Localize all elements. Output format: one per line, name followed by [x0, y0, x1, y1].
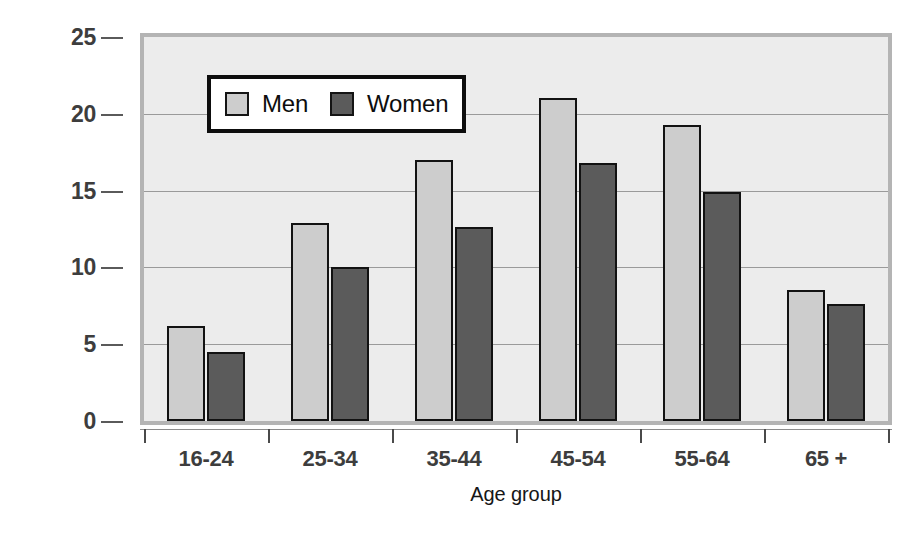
bar-women-65plus	[827, 304, 865, 421]
men-swatch-icon	[225, 92, 249, 116]
x-axis-tick-label: 25-34	[260, 446, 400, 472]
bar-men-45-54	[539, 98, 577, 421]
y-axis-tick-mark	[101, 37, 123, 39]
y-axis-tick-label: 20	[44, 100, 96, 127]
bar-men-16-24	[167, 326, 205, 421]
legend-label: Men	[262, 90, 308, 118]
y-axis-tick-label: 10	[44, 254, 96, 281]
y-axis-tick-mark	[101, 114, 123, 116]
x-axis-tick-label: 65 +	[756, 446, 896, 472]
x-axis-tick-mark	[764, 429, 766, 443]
bar-chart: Percentage of workers unionized 05101520…	[0, 0, 914, 533]
x-axis-tick-mark	[516, 429, 518, 443]
y-axis-tick-label: 25	[44, 24, 96, 51]
y-axis-tick-labels: 0510152025	[40, 0, 96, 533]
y-axis-tick-label: 5	[44, 331, 96, 358]
women-swatch-icon	[330, 92, 354, 116]
x-axis-tick-label: 16-24	[136, 446, 276, 472]
y-axis-tick-mark	[101, 344, 123, 346]
bar-women-25-34	[331, 267, 369, 421]
legend-entry-men: Men	[225, 90, 308, 118]
x-axis-title: Age group	[140, 483, 892, 506]
bar-women-45-54	[579, 163, 617, 421]
x-axis-tick-mark	[640, 429, 642, 443]
y-axis-tick-label: 0	[44, 408, 96, 435]
legend-entry-women: Women	[330, 90, 448, 118]
bar-women-35-44	[455, 227, 493, 421]
y-axis-tick-label: 15	[44, 177, 96, 204]
y-axis-tick-mark	[101, 421, 123, 423]
x-axis-tick-label: 35-44	[384, 446, 524, 472]
chart-legend: MenWomen	[207, 75, 466, 133]
y-axis-tick-mark	[101, 267, 123, 269]
x-axis-tick-mark	[144, 429, 146, 443]
x-axis-tick-label: 55-64	[632, 446, 772, 472]
y-axis-tick-mark	[101, 191, 123, 193]
x-axis-tick-mark	[392, 429, 394, 443]
x-axis-tick-mark	[888, 429, 890, 443]
bar-men-55-64	[663, 125, 701, 421]
bar-women-55-64	[703, 192, 741, 421]
legend-label: Women	[367, 90, 448, 118]
bar-men-35-44	[415, 160, 453, 421]
bar-women-16-24	[207, 352, 245, 421]
x-axis-tick-mark	[268, 429, 270, 443]
x-axis-tick-label: 45-54	[508, 446, 648, 472]
bar-men-25-34	[291, 223, 329, 421]
bar-men-65plus	[787, 290, 825, 421]
